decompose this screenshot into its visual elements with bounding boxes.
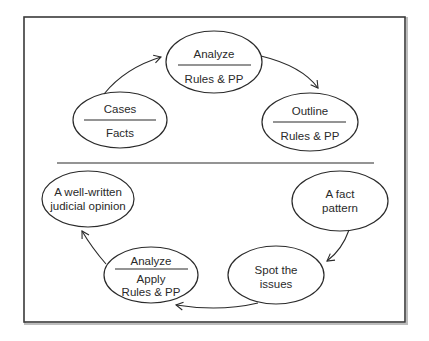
outline-sub: Rules & PP [281, 130, 340, 142]
cases-sub: Facts [106, 127, 134, 139]
analyze-top-sub: Rules & PP [185, 73, 244, 85]
diagram-canvas: Analyze Rules & PP Cases Facts Outline R… [0, 0, 429, 341]
analyze-top-label: Analyze [194, 48, 235, 60]
spot-issues-line1: Spot the [255, 264, 298, 276]
analyze-apply-line1: Apply [137, 273, 166, 285]
opinion-line2: judicial opinion [49, 200, 125, 212]
opinion-line1: A well-written [54, 186, 122, 198]
outline-label: Outline [292, 105, 328, 117]
fact-pattern-line2: pattern [322, 202, 358, 214]
analyze-apply-label: Analyze [131, 255, 172, 267]
fact-pattern-line1: A fact [326, 188, 356, 200]
spot-issues-line2: issues [260, 278, 293, 290]
cases-label: Cases [104, 103, 137, 115]
analyze-apply-line2: Rules & PP [122, 286, 181, 298]
diagram-frame [24, 17, 405, 322]
